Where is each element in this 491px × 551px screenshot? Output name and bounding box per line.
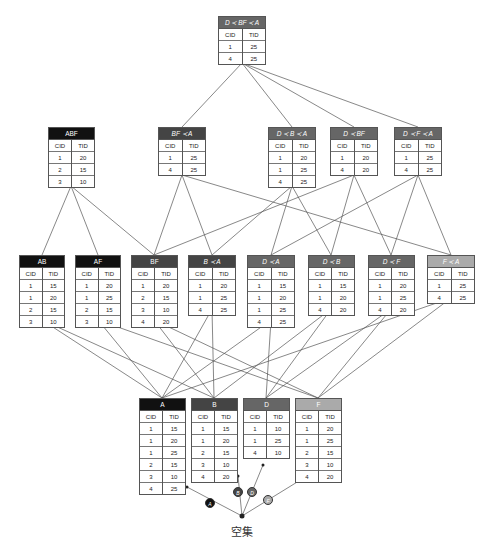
node-table: CIDTID120125420	[369, 268, 414, 315]
column-header: TID	[72, 140, 95, 152]
table-row: 120	[309, 292, 354, 304]
lattice-edges	[0, 0, 491, 551]
column-header: CID	[159, 140, 182, 152]
column-header: CID	[296, 411, 319, 423]
column-header: TID	[98, 268, 120, 280]
cid-cell: 1	[192, 435, 215, 447]
cid-cell: 1	[20, 292, 42, 304]
node-table: CIDTID110125410	[244, 411, 289, 458]
cid-cell: 3	[192, 459, 215, 471]
tid-cell: 10	[163, 471, 186, 483]
column-header: TID	[392, 268, 415, 280]
cid-cell: 4	[309, 304, 332, 316]
cid-cell: 1	[296, 435, 319, 447]
tid-cell: 25	[163, 447, 186, 459]
badge-f-icon: F	[263, 495, 273, 505]
cid-cell: 1	[248, 280, 271, 292]
tid-cell: 25	[242, 41, 265, 53]
tid-cell: 20	[332, 304, 355, 316]
table-header-row: CIDTID	[140, 411, 185, 423]
table-header-row: CIDTID	[219, 29, 265, 41]
tid-cell: 25	[451, 280, 474, 292]
cid-cell: 4	[248, 316, 271, 328]
cid-cell: 2	[132, 292, 155, 304]
column-header: CID	[369, 268, 392, 280]
node-a: ACIDTID115120125215310425	[139, 398, 186, 495]
cid-cell: 4	[331, 164, 354, 176]
table-row: 425	[269, 176, 315, 188]
table-row: 420	[192, 471, 237, 483]
node-header: D ≺ A	[248, 256, 294, 268]
cid-cell: 4	[369, 304, 392, 316]
node-bf-a: BF ≺ ACIDTID125425	[158, 127, 206, 176]
table-row: 115	[140, 423, 185, 435]
tid-cell: 10	[155, 304, 178, 316]
table-header-row: CIDTID	[296, 411, 341, 423]
table-row: 420	[369, 304, 414, 316]
cid-cell: 2	[76, 304, 98, 316]
table-row: 115	[309, 280, 354, 292]
tid-cell: 20	[98, 280, 120, 292]
node-table: CIDTID125425	[428, 268, 474, 303]
table-row: 120	[248, 292, 294, 304]
tid-cell: 20	[155, 280, 178, 292]
table-header-row: CIDTID	[49, 140, 94, 152]
node-table: CIDTID120125215310	[76, 268, 120, 327]
tid-cell: 25	[182, 152, 205, 164]
tid-cell: 15	[163, 423, 186, 435]
node-header: AB	[20, 256, 64, 268]
badge-b-icon: B	[233, 487, 243, 497]
table-row: 420	[296, 471, 341, 483]
tid-cell: 25	[163, 483, 186, 495]
tid-cell: 20	[163, 435, 186, 447]
table-row: 215	[192, 447, 237, 459]
tid-cell: 25	[292, 176, 315, 188]
table-row: 115	[192, 423, 237, 435]
tid-cell: 20	[215, 471, 238, 483]
table-row: 215	[49, 164, 94, 176]
column-header: TID	[155, 268, 178, 280]
cid-cell: 1	[248, 304, 271, 316]
tid-cell: 25	[392, 292, 415, 304]
table-row: 215	[140, 459, 185, 471]
column-header: TID	[451, 268, 474, 280]
column-header: CID	[132, 268, 155, 280]
cid-cell: 1	[49, 152, 72, 164]
cid-cell: 2	[140, 459, 163, 471]
table-row: 120	[331, 152, 377, 164]
badge-d-icon: D	[247, 487, 257, 497]
tid-cell: 20	[155, 316, 178, 328]
tid-cell: 20	[271, 292, 294, 304]
table-row: 215	[296, 447, 341, 459]
node-table: CIDTID120125215310420	[296, 411, 341, 482]
node-header: D ≺ BF ≺ A	[219, 17, 265, 29]
table-row: 425	[159, 164, 205, 176]
column-header: CID	[331, 140, 354, 152]
cid-cell: 1	[76, 292, 98, 304]
table-row: 115	[248, 280, 294, 292]
table-header-row: CIDTID	[369, 268, 414, 280]
cid-cell: 1	[369, 292, 392, 304]
cid-cell: 4	[428, 292, 451, 304]
tid-cell: 10	[98, 316, 120, 328]
tid-cell: 25	[319, 435, 342, 447]
table-header-row: CIDTID	[244, 411, 289, 423]
table-row: 215	[132, 292, 177, 304]
tid-cell: 25	[212, 292, 235, 304]
column-header: TID	[242, 29, 265, 41]
node-table: CIDTID120215310	[49, 140, 94, 187]
node-table: CIDTID115120215310	[20, 268, 64, 327]
table-row: 425	[189, 304, 235, 316]
table-row: 425	[428, 292, 474, 304]
tid-cell: 15	[215, 447, 238, 459]
table-header-row: CIDTID	[395, 140, 441, 152]
cid-cell: 1	[140, 447, 163, 459]
node-table: CIDTID120215310420	[132, 268, 177, 327]
node-d: DCIDTID110125410	[243, 398, 290, 459]
node-table: CIDTID115120420	[309, 268, 354, 315]
cid-cell: 1	[428, 280, 451, 292]
cid-cell: 1	[219, 41, 242, 53]
column-header: CID	[140, 411, 163, 423]
tid-cell: 20	[42, 292, 64, 304]
cid-cell: 3	[132, 304, 155, 316]
